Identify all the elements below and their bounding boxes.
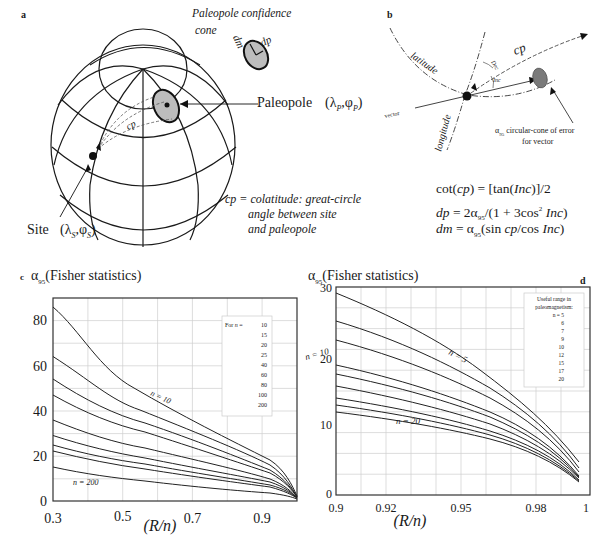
chart-d: Useful range in paleomagnetism: n = 567 … xyxy=(300,290,599,540)
svg-text:1: 1 xyxy=(583,501,589,515)
latitude-label: latitude xyxy=(409,50,441,77)
annotation-n20: n = 20 xyxy=(396,416,421,426)
svg-text:10: 10 xyxy=(261,322,267,328)
svg-text:0.7: 0.7 xyxy=(184,511,202,526)
svg-text:0.9: 0.9 xyxy=(253,511,271,526)
panel-b-letter: b xyxy=(387,9,393,20)
svg-text:200: 200 xyxy=(258,402,267,408)
panel-c-title: c α95(Fisher statistics) xyxy=(20,268,141,286)
svg-text:10: 10 xyxy=(559,344,565,350)
cp-definition-line3: and paleopole xyxy=(248,222,316,237)
longitude-label: longitude xyxy=(432,113,453,153)
svg-text:9: 9 xyxy=(561,336,564,342)
paleopole-label: Paleopole xyxy=(257,95,312,111)
xlabel-d: (R/n) xyxy=(394,512,427,530)
svg-text:0.9: 0.9 xyxy=(329,501,344,515)
svg-text:40: 40 xyxy=(33,404,47,419)
svg-text:20: 20 xyxy=(261,342,267,348)
svg-text:17: 17 xyxy=(559,368,565,374)
alpha-note-line1: α95 circular-cone of error xyxy=(495,126,574,137)
legend-c-title: For n = xyxy=(225,322,243,328)
svg-text:100: 100 xyxy=(258,392,267,398)
confidence-cone-ellipse: dm dp xyxy=(228,25,288,75)
svg-text:80: 80 xyxy=(33,313,47,328)
dec-label: Dec xyxy=(490,59,501,72)
svg-text:0: 0 xyxy=(40,494,47,509)
site-coords: (λS,φS) xyxy=(60,222,96,240)
panel-d-letter: d xyxy=(580,275,586,286)
svg-text:7: 7 xyxy=(561,328,564,334)
site-label: Site xyxy=(27,222,49,238)
panel-b-diagram: latitude longitude vector Inc Dec cp xyxy=(385,20,599,170)
svg-text:20: 20 xyxy=(559,376,565,382)
svg-text:10: 10 xyxy=(320,418,332,432)
svg-text:80: 80 xyxy=(261,382,267,388)
svg-text:0.95: 0.95 xyxy=(451,501,472,515)
cp-label-b: cp xyxy=(511,39,528,57)
xlabel-c: (R/n) xyxy=(144,517,177,535)
svg-text:15: 15 xyxy=(559,360,565,366)
svg-text:6: 6 xyxy=(561,320,564,326)
confidence-cone-label-line2: cone xyxy=(195,24,217,36)
formula-dm: dm = α95(sin cp/cos Inc) xyxy=(436,219,564,245)
svg-text:60: 60 xyxy=(261,372,267,378)
confidence-cone-label-line1: Paleopole confidence xyxy=(192,7,291,19)
svg-text:40: 40 xyxy=(261,362,267,368)
cp-definition-line1: cp = colatitude: great-circle xyxy=(225,192,361,207)
svg-text:15: 15 xyxy=(261,332,267,338)
svg-text:20: 20 xyxy=(33,449,47,464)
inc-label: Inc xyxy=(492,77,501,83)
svg-text:Useful range in: Useful range in xyxy=(537,296,571,302)
panel-a-letter: a xyxy=(21,9,26,20)
svg-text:20: 20 xyxy=(320,352,332,366)
svg-text:0: 0 xyxy=(326,487,332,501)
svg-text:25: 25 xyxy=(261,352,267,358)
cp-arc-label: cp xyxy=(124,118,137,132)
paleopole-coords: (λP,φP) xyxy=(325,95,363,113)
formula-cot-cp: cot(cp) = [tan(Inc)]/2 xyxy=(436,179,551,199)
vector-label: vector xyxy=(384,110,400,119)
svg-text:0.98: 0.98 xyxy=(526,501,547,515)
cp-definition-line2: angle between site xyxy=(248,207,337,222)
svg-text:paleomagnetism:: paleomagnetism: xyxy=(535,304,573,310)
annotation-n200: n = 200 xyxy=(73,478,98,487)
svg-text:12: 12 xyxy=(559,352,565,358)
svg-text:0.3: 0.3 xyxy=(44,511,62,526)
svg-text:0.5: 0.5 xyxy=(114,509,132,524)
chart-c: For n = 101520 254060 80100200 n = 10 n … xyxy=(0,290,300,540)
svg-text:30: 30 xyxy=(320,281,332,295)
alpha-note-line2: for vector xyxy=(522,137,553,146)
svg-text:60: 60 xyxy=(33,359,47,374)
svg-text:n = 5: n = 5 xyxy=(553,312,565,318)
